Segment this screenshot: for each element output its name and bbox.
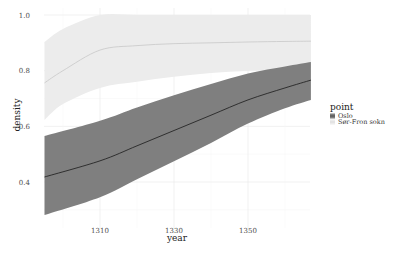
y-tick-label: 0.4 bbox=[19, 179, 31, 187]
x-tick-label: 1350 bbox=[239, 227, 257, 235]
legend-label: Sør-Fron sokn bbox=[338, 118, 385, 126]
x-axis-title: year bbox=[166, 233, 188, 243]
x-tick-label: 1310 bbox=[91, 227, 109, 235]
legend: point OsloSør-Fron sokn bbox=[330, 102, 385, 126]
legend-title: point bbox=[330, 102, 354, 112]
y-tick-label: 1.0 bbox=[19, 12, 30, 20]
confidence-bands bbox=[45, 14, 311, 215]
y-tick-label: 0.8 bbox=[19, 67, 30, 75]
y-axis-title: density bbox=[12, 98, 22, 132]
chart: 0.40.60.81.0 131013301350 year density p… bbox=[0, 0, 393, 259]
